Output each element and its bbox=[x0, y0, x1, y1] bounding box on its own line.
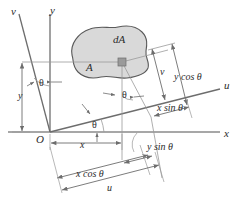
area-blob-shape bbox=[72, 26, 149, 78]
dimension-x bbox=[50, 134, 122, 150]
theta-label-dA: θ bbox=[122, 90, 127, 100]
v-axis-label: v bbox=[11, 6, 16, 17]
area-region bbox=[72, 26, 149, 78]
u-axis-label: u bbox=[224, 80, 230, 91]
y-axis-label: y bbox=[50, 5, 55, 16]
theta-label-y-v: θ bbox=[39, 78, 44, 88]
dimension-label-u: u bbox=[107, 183, 112, 193]
area-region-label: A bbox=[86, 62, 93, 73]
dimension-label-x-cos-theta: x cos θ bbox=[76, 169, 104, 179]
arc-theta-origin bbox=[101, 119, 104, 132]
dimension-label-y-sin-theta: y sin θ bbox=[147, 142, 173, 152]
dimension-label-y: y bbox=[18, 91, 22, 101]
dim-u-ext-right bbox=[155, 152, 164, 182]
dim-xcos-ext-left bbox=[50, 147, 62, 193]
leader-theta-dA-right bbox=[134, 96, 144, 97]
rotated-axes-figure: x y u v O θ θ θ A dA y x v y cos θ x sin… bbox=[0, 0, 235, 217]
theta-label-origin: θ bbox=[92, 120, 97, 130]
origin-label: O bbox=[36, 134, 44, 145]
dim-ysin-line bbox=[124, 156, 152, 163]
dA-element-marker bbox=[118, 58, 126, 66]
x-axis-label: x bbox=[224, 128, 229, 139]
area-element-label: dA bbox=[113, 34, 125, 45]
leader-theta-origin-upper bbox=[82, 104, 90, 114]
dimension-label-x: x bbox=[80, 140, 84, 150]
v-dim-ext-top bbox=[148, 43, 175, 50]
dimension-label-x-sin-theta: x sin θ bbox=[157, 103, 183, 113]
dimension-label-y-cos-theta: y cos θ bbox=[174, 72, 202, 82]
leader2-theta-y-v bbox=[27, 82, 34, 86]
leader-theta-dA-left bbox=[103, 93, 115, 95]
dimension-label-v: v bbox=[160, 67, 164, 77]
dim-ysin-arc bbox=[132, 133, 137, 152]
u-axis-line bbox=[50, 89, 220, 132]
v-axis-line bbox=[19, 14, 50, 132]
